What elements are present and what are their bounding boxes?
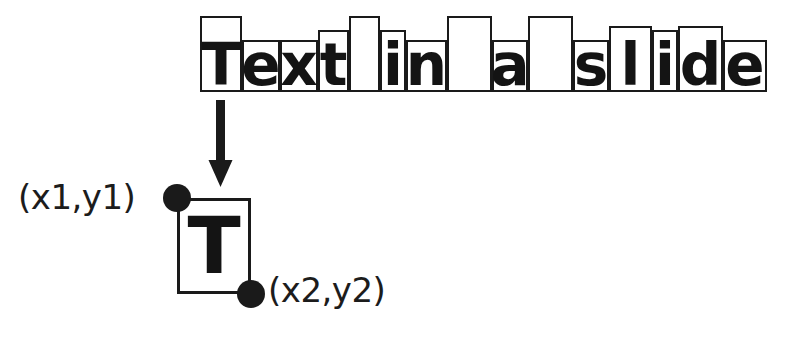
per-character-bounding-boxes: Textinaslide (200, 16, 800, 92)
char-box-d-13: d (678, 26, 723, 92)
char-glyph: l (621, 39, 641, 92)
char-glyph: i (655, 39, 675, 92)
char-glyph: T (201, 39, 241, 92)
char-box-l-11: l (609, 26, 652, 92)
char-box-space-7 (447, 16, 492, 92)
char-glyph: d (680, 39, 722, 92)
char-glyph: e (725, 39, 764, 92)
character-bounding-box-detail: T (170, 190, 270, 302)
char-box-i-12: i (652, 30, 678, 92)
char-box-e-1: e (242, 40, 280, 92)
char-box-s-10: s (573, 40, 609, 92)
coordinate-label-top-left: (x1,y1) (18, 177, 135, 217)
bounding-box-glyph: T (177, 198, 251, 294)
corner-dot-top-left (163, 184, 191, 212)
zoom-arrow (206, 100, 236, 190)
char-box-a-8: a (492, 40, 528, 92)
char-glyph: s (574, 39, 609, 92)
arrow-down-icon (206, 100, 236, 190)
diagram-canvas: Textinaslide (x1,y1) T (x2,y2) (0, 0, 810, 340)
char-box-t-3: t (318, 30, 349, 92)
coordinate-label-bottom-right: (x2,y2) (268, 270, 385, 310)
char-box-n-6: n (406, 40, 447, 92)
char-glyph: x (280, 39, 317, 92)
char-glyph: i (383, 39, 403, 92)
char-glyph: t (320, 39, 348, 92)
char-box-e-14: e (723, 40, 767, 92)
char-glyph: e (241, 39, 280, 92)
corner-dot-bottom-right (237, 280, 265, 308)
char-box-space-9 (528, 16, 573, 92)
char-box-t-0: T (200, 16, 242, 92)
char-glyph: a (490, 39, 529, 92)
char-box-x-2: x (280, 40, 318, 92)
char-glyph: n (406, 39, 447, 92)
char-box-space-4 (349, 16, 380, 92)
char-box-i-5: i (380, 30, 406, 92)
